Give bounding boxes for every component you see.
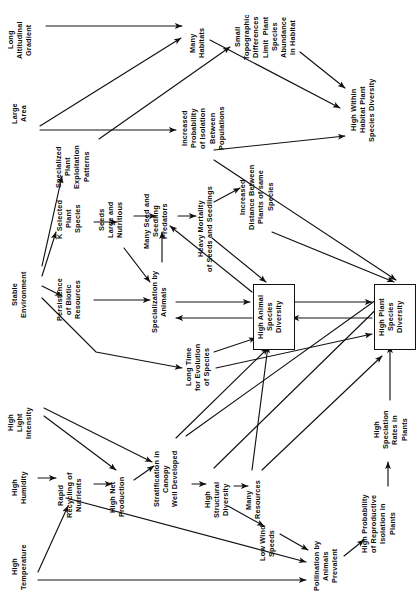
node-stable-environment: Stable Environment (10, 258, 34, 332)
edge-many-resources-to-high-animal-species-diversity (252, 346, 268, 470)
node-specialization-by-animals: Specialization by Animals (150, 262, 174, 342)
node-k-selected-plant-species: K Selected Plant Species (55, 192, 89, 246)
node-high-speciation-rates-in-plants: High Speciation Rates in Plants (372, 402, 414, 458)
diagram-canvas: Long Altitudinal GradientLarge AreaStabl… (0, 0, 419, 598)
node-high-animal-species-diversity: High Animal Species Diversity (253, 284, 295, 350)
node-specialized-plant-exploitation-patterns: Specialized Plant Exploitation Patterns (54, 138, 96, 196)
node-seeds-large-and-nutritious: Seeds Large and Nutritious (97, 194, 131, 246)
node-heavy-mortality-seeds-seedlings: Heavy Mortality of Seeds and Seedlings (196, 186, 220, 272)
node-high-within-habitat-plant-species-diversity: High Within Habitat Plant Species Divers… (349, 72, 387, 148)
edge-high-net-production-to-stratification-in-canopy (134, 466, 154, 480)
edge-increased-distance-between-plants-to-high-plant-species-diversity (272, 232, 394, 282)
node-long-altitudinal-gradient: Long Altitudinal Gradient (6, 6, 40, 74)
node-high-plant-species-diversity: High Plant Species Diversity (374, 284, 416, 350)
edge-many-resources-to-high-plant-species-diversity (262, 356, 382, 470)
edge-heavy-mortality-seeds-seedlings-to-high-animal-species-diversity (212, 238, 266, 282)
node-high-structural-diversity: High Structural Diversity (203, 472, 237, 528)
edge-long-time-for-evolution-of-species-to-high-animal-species-diversity (214, 338, 256, 352)
edge-large-area-to-many-habitats (40, 38, 181, 126)
node-high-light-intensity: High Light Intensity (6, 398, 40, 448)
node-many-seed-and-seedling-predators: Many Seed and Seedling Predators (142, 186, 176, 256)
node-rapid-recycling-of-nutrients: Rapid Recycling of Nutrients (56, 466, 92, 524)
node-pollination-by-animals-prevalent: Pollination by Animals Prevalent (312, 534, 348, 598)
edge-high-light-intensity-to-high-net-production (44, 416, 116, 470)
node-high-net-production: High Net Production (108, 470, 134, 524)
node-long-time-for-evolution-of-species: Long Time for Evolution of Species (184, 340, 220, 394)
node-high-temperature: High Temperature (10, 536, 34, 598)
edge-high-light-intensity-to-stratification-in-canopy (44, 408, 152, 462)
node-increased-probability-isolation: Increased Probability of Isolation Betwe… (180, 100, 230, 156)
node-many-habitats: Many Habitats (188, 20, 212, 66)
edge-low-wind-speeds-to-pollination-by-animals-prevalent (280, 534, 308, 550)
node-high-probability-reproductive-isolation: High Probability of Reproductive Isolati… (360, 484, 406, 564)
node-persistence-of-biotic-resources: Persistence of Biotic Resources (55, 272, 89, 328)
node-low-wind-speeds: Low Wind Speeds (258, 518, 282, 568)
node-small-topographic-differences: Small Topographic Differences Limit Plan… (233, 6, 303, 68)
node-increased-distance-between-plants: Increased Distance Between Plants of sam… (238, 162, 284, 232)
edge-increased-probability-isolation-to-high-within-habitat-plant-species-diversity (214, 136, 345, 150)
edge-small-topographic-differences-to-high-within-habitat-plant-species-diversity (300, 52, 345, 88)
node-large-area: Large Area (10, 92, 34, 136)
edge-high-structural-diversity-to-high-plant-species-diversity (214, 288, 398, 468)
node-high-humidity: High Humidity (10, 462, 34, 514)
node-stratification-in-canopy: Stratification in Canopy Well Developed (152, 440, 190, 518)
